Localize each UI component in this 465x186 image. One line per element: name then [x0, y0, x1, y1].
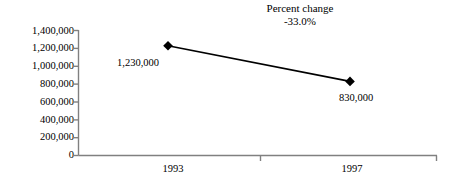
data-point-label: 830,000: [339, 92, 373, 103]
x-tick-label: 1997: [312, 163, 392, 174]
chart-figure: Percent change -33.0% 1,400,000 1,200,00…: [0, 0, 465, 186]
series-line: [168, 46, 350, 82]
x-tick-label: 1993: [133, 163, 213, 174]
data-point-marker: [345, 77, 355, 87]
x-axis-ticks: [261, 156, 437, 162]
y-axis-ticks: [73, 31, 79, 156]
data-point-label: 1,230,000: [117, 57, 159, 68]
plot-area: [0, 0, 465, 186]
data-point-marker: [163, 41, 173, 51]
